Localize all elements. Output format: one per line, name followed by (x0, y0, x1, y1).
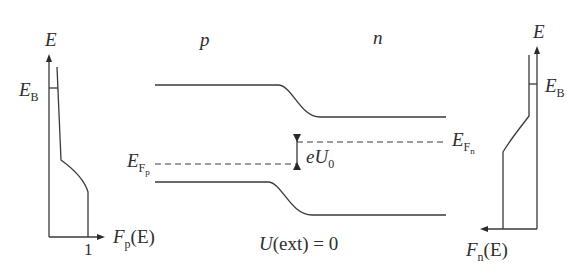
efp-sub: Fp (139, 161, 150, 175)
pn-junction-diagram: E EB Fp(E) 1 p n EFp EFn eU0 U(ext) = 0 … (0, 0, 587, 274)
left-eb-label: EB (19, 80, 39, 99)
valence-band-edge (155, 182, 446, 215)
right-eb-sub: B (557, 86, 565, 100)
left-fp-curve (57, 67, 88, 237)
right-energy-axis-label: E (533, 22, 545, 41)
right-eb-letter: E (545, 75, 557, 96)
left-fp-axis-label: Fp(E) (113, 227, 155, 246)
conduction-band-edge (155, 85, 446, 117)
right-fn-sub: n (478, 250, 484, 264)
external-voltage-caption: U(ext) = 0 (259, 234, 338, 253)
left-occupation-graph (49, 58, 101, 237)
efn-letter: E (452, 129, 464, 150)
efp-label: EFp (127, 151, 150, 170)
left-fp-sub: p (125, 237, 131, 251)
eu0-label: eU0 (306, 147, 334, 166)
right-fn-paren: (E) (484, 239, 508, 260)
eu0-sub: 0 (328, 157, 334, 171)
eu0-arrow-bottom-icon (293, 162, 301, 170)
efp-sub-p: p (145, 167, 150, 177)
left-tick-one: 1 (84, 241, 93, 258)
left-eb-sub: B (31, 90, 39, 104)
p-region-label: p (200, 30, 210, 49)
efp-letter: E (127, 150, 139, 171)
right-occupation-graph (484, 50, 537, 229)
n-region-label: n (373, 28, 383, 47)
eu0-arrow-top-icon (293, 134, 301, 142)
right-eb-label: EB (545, 76, 565, 95)
left-fp-paren: (E) (131, 226, 155, 247)
band-diagram (155, 85, 446, 215)
efn-sub: Fn (464, 140, 475, 154)
left-fp-letter: F (113, 226, 125, 247)
right-fn-curve (503, 55, 529, 229)
right-fn-letter: F (466, 239, 478, 260)
eu0-u: U (314, 146, 328, 167)
right-fn-axis-label: Fn(E) (466, 240, 508, 259)
efn-label: EFn (452, 130, 475, 149)
left-energy-axis-label: E (45, 30, 57, 49)
left-eb-letter: E (19, 79, 31, 100)
efn-sub-n: n (470, 146, 475, 156)
caption-u: U (259, 233, 273, 254)
caption-rest: (ext) = 0 (273, 233, 339, 254)
